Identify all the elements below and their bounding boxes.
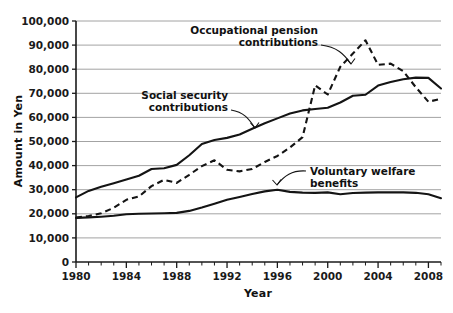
x-axis-tick-label: 1980 bbox=[61, 270, 90, 282]
gridlines-group bbox=[72, 21, 441, 262]
y-axis-tick-label: 40,000 bbox=[28, 159, 69, 171]
occupational-pension-label-line-1: Occupational pension bbox=[190, 24, 318, 36]
y-axis-tick-label: 80,000 bbox=[28, 63, 69, 75]
social-security-label: Social securitycontributions bbox=[141, 89, 259, 128]
x-axis-title: Year bbox=[243, 287, 272, 300]
annotations-group: Occupational pensioncontributionsSocial … bbox=[141, 24, 415, 189]
y-axis-tick-label: 10,000 bbox=[28, 232, 69, 244]
line-chart-canvas: 010,00020,00030,00040,00050,00060,00070,… bbox=[0, 0, 453, 313]
y-axis-tick-labels: 010,00020,00030,00040,00050,00060,00070,… bbox=[21, 15, 69, 268]
x-axis-tick-label: 1988 bbox=[162, 270, 191, 282]
occupational-pension-label: Occupational pensioncontributions bbox=[190, 24, 355, 64]
x-axis-tick-label: 1992 bbox=[212, 270, 241, 282]
voluntary-welfare-label: Voluntary welfarebenefits bbox=[273, 165, 416, 189]
social-security-label-line-1: Social security bbox=[141, 89, 228, 101]
series-line-occupational-pension-contributions bbox=[76, 40, 441, 217]
x-axis-tick-labels: 19801984198819921996200020042008 bbox=[61, 270, 443, 282]
social-security-label-leader-line bbox=[231, 110, 255, 128]
y-axis-tick-label: 30,000 bbox=[28, 183, 69, 195]
x-axis-tick-label: 2004 bbox=[363, 270, 392, 282]
y-axis-tick-label: 100,000 bbox=[21, 15, 69, 27]
y-axis-tick-label: 20,000 bbox=[28, 207, 69, 219]
social-security-label-line-2: contributions bbox=[149, 101, 228, 113]
chart-figure: 010,00020,00030,00040,00050,00060,00070,… bbox=[0, 0, 453, 313]
x-axis-ticks-group bbox=[76, 262, 441, 268]
voluntary-welfare-label-line-2: benefits bbox=[310, 177, 358, 189]
data-series-group bbox=[76, 40, 441, 218]
y-axis-tick-label: 50,000 bbox=[28, 135, 69, 147]
y-axis-tick-label: 60,000 bbox=[28, 111, 69, 123]
y-axis-tick-label: 0 bbox=[62, 256, 69, 268]
voluntary-welfare-label-leader-line bbox=[277, 171, 306, 185]
x-axis-tick-label: 1984 bbox=[112, 270, 141, 282]
series-line-social-security-contributions bbox=[76, 78, 441, 198]
x-axis-tick-label: 2000 bbox=[313, 270, 342, 282]
x-axis-tick-label: 2008 bbox=[414, 270, 443, 282]
voluntary-welfare-label-line-1: Voluntary welfare bbox=[310, 165, 415, 177]
y-axis-tick-label: 70,000 bbox=[28, 87, 69, 99]
y-axis-title: Amount in Yen bbox=[12, 95, 25, 188]
x-axis-tick-label: 1996 bbox=[263, 270, 292, 282]
y-axis-tick-label: 90,000 bbox=[28, 39, 69, 51]
occupational-pension-label-line-2: contributions bbox=[239, 36, 318, 48]
